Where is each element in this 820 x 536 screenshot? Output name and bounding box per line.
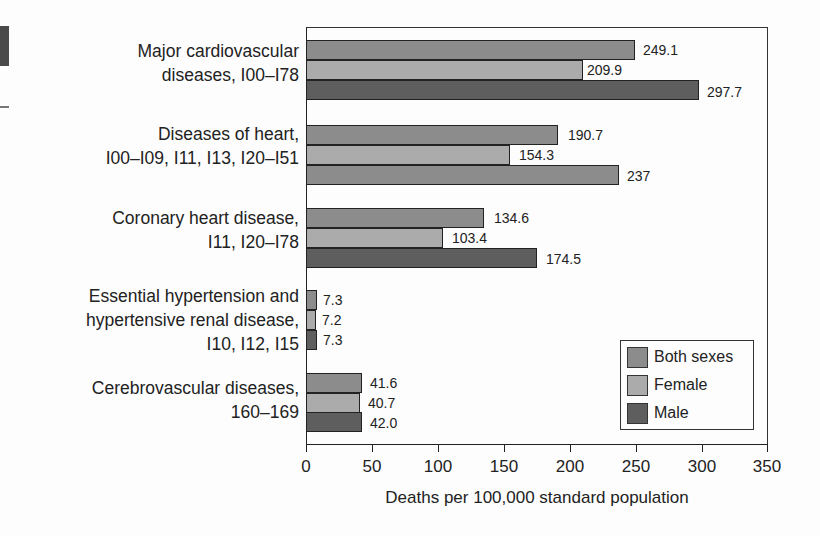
x-tick-label: 300 xyxy=(672,457,732,477)
category-label-line: I00–I09, I11, I13, I20–I51 xyxy=(106,146,299,170)
bar-hypertension-both-sexes xyxy=(306,290,317,310)
x-tick xyxy=(372,445,373,452)
legend-item-female: Female xyxy=(627,374,707,396)
x-tick-label: 150 xyxy=(474,457,534,477)
value-label: 174.5 xyxy=(546,251,581,267)
value-label: 41.6 xyxy=(370,375,397,391)
legend: Both sexes Female Male xyxy=(620,340,754,430)
legend-label: Male xyxy=(654,404,689,422)
category-label-line: Coronary heart disease, xyxy=(112,206,299,230)
cropped-edge-line xyxy=(0,106,9,108)
bar-coronary-both-sexes xyxy=(306,208,484,228)
bar-major-cardiovascular-female xyxy=(306,60,583,80)
x-tick xyxy=(570,445,571,452)
x-tick xyxy=(702,445,703,452)
category-label-coronary-heart-disease: Coronary heart disease, I11, I20–I78 xyxy=(112,206,299,254)
cropped-edge-block xyxy=(0,26,9,66)
x-tick-label: 200 xyxy=(540,457,600,477)
bar-cerebrovascular-both-sexes xyxy=(306,373,362,393)
value-label: 40.7 xyxy=(368,395,395,411)
bar-coronary-female xyxy=(306,228,443,248)
x-axis-title: Deaths per 100,000 standard population xyxy=(306,488,768,508)
legend-swatch-icon xyxy=(627,375,648,396)
bar-cerebrovascular-female xyxy=(306,393,360,413)
bar-diseases-of-heart-both-sexes xyxy=(306,125,558,145)
x-tick-label: 350 xyxy=(737,457,797,477)
category-label-line: Cerebrovascular diseases, xyxy=(92,376,299,400)
legend-label: Both sexes xyxy=(654,348,733,366)
bar-major-cardiovascular-male xyxy=(306,80,699,100)
value-label: 7.3 xyxy=(323,332,342,348)
category-label-line: diseases, I00–I78 xyxy=(138,63,299,87)
value-label: 7.3 xyxy=(323,292,342,308)
x-tick-label: 0 xyxy=(276,457,336,477)
bar-cerebrovascular-male xyxy=(306,412,362,432)
legend-swatch-icon xyxy=(627,347,648,368)
x-tick-label: 50 xyxy=(342,457,402,477)
category-label-line: Essential hypertension and xyxy=(86,284,299,308)
category-label-line: hypertensive renal disease, xyxy=(86,308,299,332)
bar-major-cardiovascular-both-sexes xyxy=(306,40,635,60)
value-label: 134.6 xyxy=(494,210,529,226)
category-label-major-cardiovascular: Major cardiovascular diseases, I00–I78 xyxy=(138,39,299,87)
value-label: 249.1 xyxy=(643,42,678,58)
category-label-line: I11, I20–I78 xyxy=(112,230,299,254)
x-tick-label: 100 xyxy=(408,457,468,477)
category-label-essential-hypertension: Essential hypertension and hypertensive … xyxy=(86,284,299,356)
x-tick xyxy=(306,445,307,452)
value-label: 237 xyxy=(627,168,650,184)
category-label-cerebrovascular: Cerebrovascular diseases, 160–169 xyxy=(92,376,299,424)
value-label: 42.0 xyxy=(370,415,397,431)
bar-coronary-male xyxy=(306,248,537,268)
value-label: 103.4 xyxy=(452,230,487,246)
legend-label: Female xyxy=(654,376,707,394)
x-tick xyxy=(767,445,768,452)
legend-item-male: Male xyxy=(627,402,689,424)
x-tick xyxy=(438,445,439,452)
legend-item-both-sexes: Both sexes xyxy=(627,346,733,368)
x-tick xyxy=(504,445,505,452)
category-label-line: I10, I12, I15 xyxy=(86,332,299,356)
value-label: 154.3 xyxy=(519,147,554,163)
value-label: 190.7 xyxy=(568,127,603,143)
x-tick-label: 250 xyxy=(606,457,666,477)
legend-swatch-icon xyxy=(627,403,648,424)
category-label-line: Diseases of heart, xyxy=(106,122,299,146)
bar-hypertension-male xyxy=(306,330,317,350)
bar-hypertension-female xyxy=(306,310,316,330)
bar-diseases-of-heart-female xyxy=(306,145,510,165)
x-tick xyxy=(636,445,637,452)
category-label-line: 160–169 xyxy=(92,400,299,424)
category-label-line: Major cardiovascular xyxy=(138,39,299,63)
value-label: 297.7 xyxy=(707,84,742,100)
value-label: 209.9 xyxy=(587,62,622,78)
horizontal-bar-chart: Major cardiovascular diseases, I00–I78 D… xyxy=(0,0,820,536)
category-label-diseases-of-heart: Diseases of heart, I00–I09, I11, I13, I2… xyxy=(106,122,299,170)
value-label: 7.2 xyxy=(322,312,341,328)
bar-diseases-of-heart-male xyxy=(306,165,619,185)
